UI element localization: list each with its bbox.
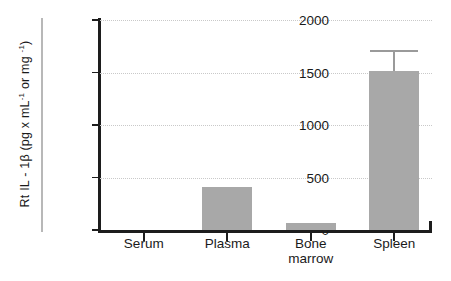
x-axis-tick-label: Serum	[124, 236, 164, 251]
x-axis-end-tick	[429, 221, 432, 233]
y-axis-tick	[92, 229, 98, 231]
x-axis-tick-label: Bone marrow	[288, 236, 333, 267]
bar	[369, 71, 419, 230]
y-axis-title-suffix: )	[18, 41, 32, 45]
gridline	[100, 20, 432, 21]
y-axis-tick-label: 500	[283, 170, 329, 185]
y-axis-tick	[92, 72, 98, 74]
y-axis-title-sup-2: -1	[17, 45, 26, 53]
x-axis-tick-label: Spleen	[373, 236, 415, 251]
y-axis-title-rule	[41, 18, 43, 232]
y-axis-tick	[92, 177, 98, 179]
y-axis-tick	[92, 124, 98, 126]
y-axis-tick-label: 2000	[283, 13, 329, 28]
plot-area: 0500100015002000	[98, 20, 432, 230]
bar	[286, 223, 336, 230]
y-axis-tick-label: 1500	[283, 65, 329, 80]
y-axis-title-sup-1: -1	[17, 93, 26, 101]
y-axis-tick	[92, 19, 98, 21]
error-bar-stem	[393, 50, 395, 71]
y-axis-title: Rt IL - 1β (pg x mL-1 or mg -1)	[8, 16, 42, 232]
y-axis-title-prefix: Rt IL - 1β (pg x mL	[18, 100, 32, 207]
error-bar-cap	[370, 50, 418, 52]
x-axis-spine	[98, 230, 432, 233]
y-axis-title-text: Rt IL - 1β (pg x mL-1 or mg -1)	[18, 41, 32, 208]
bar-chart-figure: Rt IL - 1β (pg x mL-1 or mg -1) 05001000…	[0, 0, 451, 281]
y-axis-title-middle: or mg	[18, 52, 32, 92]
bar	[202, 187, 252, 230]
y-axis-tick-label: 1000	[283, 118, 329, 133]
x-axis-tick-label: Plasma	[205, 236, 250, 251]
